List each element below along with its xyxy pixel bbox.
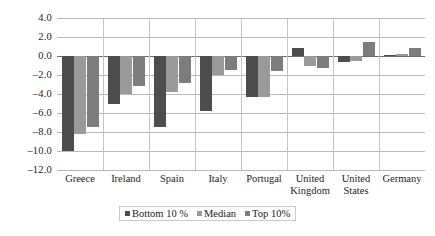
chart-legend: Bottom 10 % Median Top 10% <box>119 206 296 221</box>
x-axis-category-label: Germany <box>379 173 425 185</box>
bar <box>258 56 270 97</box>
bar-group <box>103 18 149 170</box>
bar-group <box>57 18 103 170</box>
axis-bottom-rule <box>57 170 425 171</box>
y-axis-tick-labels: 4.02.00.0–2.0–4.0–6.0–8.0–10.0–12.0 <box>0 18 52 170</box>
group-separator <box>287 18 288 170</box>
x-axis-category-label: Portugal <box>241 173 287 185</box>
group-separator <box>241 18 242 170</box>
bar <box>271 56 283 71</box>
bar-chart: 4.02.00.0–2.0–4.0–6.0–8.0–10.0–12.0 Gree… <box>0 0 435 236</box>
bar-group <box>195 18 241 170</box>
y-axis-tick-label: –10.0 <box>4 146 52 156</box>
bar <box>212 56 224 75</box>
bar <box>246 56 258 97</box>
group-separator <box>379 18 380 170</box>
bar <box>304 56 316 66</box>
bar <box>200 56 212 111</box>
legend-swatch-icon <box>245 211 250 216</box>
x-axis-category-label: Spain <box>149 173 195 185</box>
bar <box>409 48 421 56</box>
legend-item-0[interactable]: Bottom 10 % <box>125 208 188 219</box>
y-axis-tick-label: –12.0 <box>4 165 52 175</box>
y-axis-tick-label: –4.0 <box>4 89 52 99</box>
legend-label: Bottom 10 % <box>132 208 188 219</box>
x-axis-category-label: Ireland <box>103 173 149 185</box>
legend-label: Top 10% <box>252 208 290 219</box>
group-separator <box>195 18 196 170</box>
y-axis-tick-label: 2.0 <box>4 32 52 42</box>
bar <box>225 56 237 70</box>
bar <box>350 56 362 61</box>
x-axis-category-label: United States <box>333 173 379 196</box>
legend-swatch-icon <box>197 211 202 216</box>
bar <box>317 56 329 68</box>
bar <box>62 56 74 151</box>
bar-group <box>287 18 333 170</box>
y-axis-tick-label: –6.0 <box>4 108 52 118</box>
bar-group <box>149 18 195 170</box>
bar <box>108 56 120 104</box>
group-separator <box>103 18 104 170</box>
y-axis-tick-label: 4.0 <box>4 13 52 23</box>
bar <box>396 54 408 56</box>
legend-label: Median <box>204 208 236 219</box>
bar <box>154 56 166 127</box>
y-axis-tick-label: 0.0 <box>4 51 52 61</box>
bar-group <box>333 18 379 170</box>
x-axis-category-label: Greece <box>57 173 103 185</box>
group-separator <box>149 18 150 170</box>
plot-area <box>57 18 425 170</box>
bar <box>292 48 304 56</box>
bar <box>120 56 132 94</box>
bar-group <box>379 18 425 170</box>
x-axis-category-label: United Kingdom <box>287 173 333 196</box>
y-axis-tick-label: –2.0 <box>4 70 52 80</box>
bar-groups <box>57 18 425 170</box>
bar <box>133 56 145 86</box>
bar <box>74 56 86 134</box>
bar <box>166 56 178 92</box>
group-separator <box>333 18 334 170</box>
bar <box>87 56 99 127</box>
y-axis-tick-label: –8.0 <box>4 127 52 137</box>
bar <box>179 56 191 83</box>
legend-item-2[interactable]: Top 10% <box>245 208 290 219</box>
bar <box>384 55 396 56</box>
legend-swatch-icon <box>125 211 130 216</box>
legend-item-1[interactable]: Median <box>197 208 236 219</box>
bar-group <box>241 18 287 170</box>
x-axis-category-labels: GreeceIrelandSpainItalyPortugalUnited Ki… <box>57 173 425 207</box>
bar <box>363 42 375 56</box>
x-axis-category-label: Italy <box>195 173 241 185</box>
bar <box>338 56 350 62</box>
